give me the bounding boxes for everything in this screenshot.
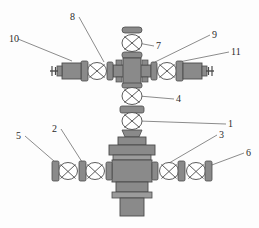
callout-label-5: 5 xyxy=(16,131,21,141)
lower-cross-assembly xyxy=(109,137,155,216)
leader-line-8 xyxy=(79,17,104,62)
upper-cross-hub xyxy=(113,58,151,88)
leader-line-9 xyxy=(155,35,210,62)
right-wing-arm xyxy=(151,61,214,81)
upper-master-valve xyxy=(122,88,142,105)
leader-line-2 xyxy=(61,129,84,165)
left-wing-arm xyxy=(50,61,113,81)
diagram-canvas: 1234567891011 xyxy=(0,0,259,228)
callout-label-8: 8 xyxy=(70,12,75,22)
right-wing-valve xyxy=(158,63,177,80)
middle-vertical-stack xyxy=(120,88,144,138)
callout-label-10: 10 xyxy=(9,34,19,44)
callout-label-2: 2 xyxy=(52,124,57,134)
leader-line-10 xyxy=(18,39,72,61)
left-wing-valve xyxy=(88,63,107,80)
swab-valve xyxy=(122,35,142,52)
lower-left-outer-valve xyxy=(59,163,78,180)
callout-label-11: 11 xyxy=(231,47,241,57)
swab-valve-lower-flange xyxy=(122,52,142,58)
left-choke-body xyxy=(57,63,81,79)
leader-line-4 xyxy=(139,96,174,99)
leader-line-1 xyxy=(139,121,226,124)
top-cap xyxy=(122,27,142,33)
lower-right-outer-valve xyxy=(187,163,206,180)
callout-label-9: 9 xyxy=(212,30,217,40)
lower-left-arm xyxy=(52,161,112,181)
lower-right-arm xyxy=(152,161,212,181)
right-choke-body xyxy=(183,63,207,79)
leader-line-11 xyxy=(179,52,229,62)
callout-label-7: 7 xyxy=(156,41,161,51)
lower-master-valve xyxy=(122,113,142,130)
callout-label-4: 4 xyxy=(176,94,181,104)
wellhead-tree-diagram xyxy=(0,0,259,228)
lower-right-inner-valve xyxy=(160,163,179,180)
upper-vertical-stack xyxy=(122,27,142,58)
callout-label-6: 6 xyxy=(246,148,251,158)
callout-label-3: 3 xyxy=(219,130,224,140)
lower-left-inner-valve xyxy=(86,163,105,180)
callout-label-1: 1 xyxy=(228,119,233,129)
